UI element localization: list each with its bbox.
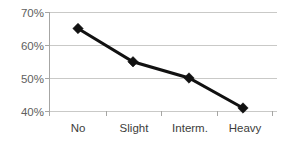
x-tick-label-no: No [71, 122, 86, 134]
y-tick-label-50: 50% [21, 73, 44, 85]
x-tick-label-heavy: Heavy [229, 122, 262, 134]
y-tick-label-70: 70% [21, 7, 44, 19]
x-tick-label-slight: Slight [120, 122, 150, 134]
y-tick-label-40: 40% [21, 106, 44, 118]
x-tick-label-interm: Interm. [172, 122, 208, 134]
y-tick-label-60: 60% [21, 40, 44, 52]
chart-canvas: 70% 60% 50% 40% No Slight Interm. Heavy [0, 0, 289, 141]
chart-background [0, 0, 289, 141]
line-chart: 70% 60% 50% 40% No Slight Interm. Heavy [0, 0, 289, 141]
